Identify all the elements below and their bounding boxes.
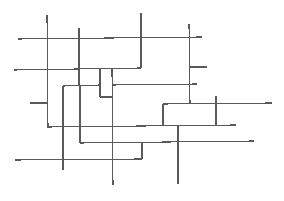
- line-segment-v2: [47, 15, 48, 128]
- line-segment-h3: [63, 85, 100, 86]
- line-segment-h1: [18, 37, 202, 39]
- line-segment-h8: [163, 103, 272, 104]
- line-segment-h11: [15, 159, 142, 160]
- line-segment-h5: [112, 84, 197, 85]
- line-diagram: [0, 0, 284, 201]
- line-segment-h10: [80, 141, 254, 143]
- line-segment-v6: [112, 69, 113, 185]
- line-segment-h2: [14, 68, 141, 70]
- line-network-canvas: [0, 0, 284, 201]
- line-segment-h9: [48, 125, 236, 127]
- line-segment-v7: [189, 24, 190, 103]
